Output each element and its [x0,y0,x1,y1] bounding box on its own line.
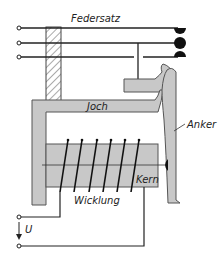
label-joch: Joch [87,102,108,112]
terminal-circles [17,26,21,59]
armature-anker [162,68,180,203]
relay-schematic [0,0,223,262]
label-wicklung: Wicklung [74,196,120,206]
residual-stud [165,159,168,171]
coil-ends [67,139,141,142]
insulator-block [46,27,61,101]
label-federsatz: Federsatz [71,14,120,24]
label-voltage: U [25,225,32,235]
contact-points [174,28,186,57]
spring-set [20,28,178,79]
label-anker: Anker [187,120,216,130]
label-kern: Kern [136,175,159,185]
voltage-arrow-icon [16,222,22,240]
relay-diagram: Federsatz Joch Anker Kern Wicklung U [0,0,223,262]
